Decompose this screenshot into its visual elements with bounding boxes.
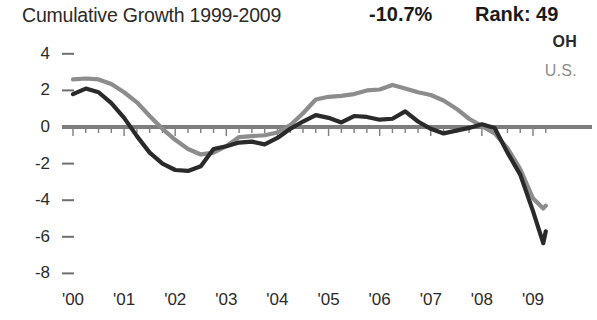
- chart-figure: Cumulative Growth 1999-2009 -10.7% Rank:…: [0, 0, 597, 320]
- plot-area: 420-2-4-6-8 '00'01'02'03'04'05'06'07'08'…: [0, 0, 597, 320]
- chart-canvas: [0, 0, 597, 320]
